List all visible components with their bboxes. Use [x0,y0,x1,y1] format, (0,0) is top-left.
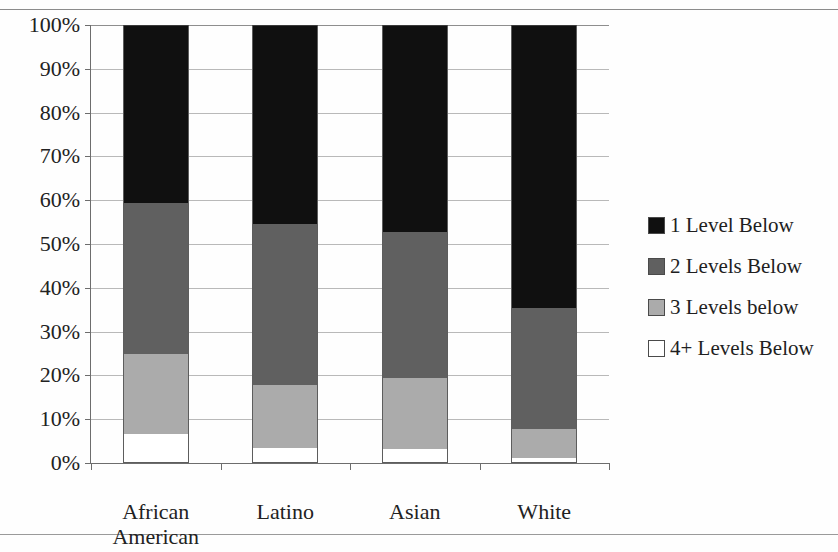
x-axis-label-line: American [112,524,199,549]
y-axis-label: 30% [40,321,80,343]
legend: 1 Level Below2 Levels Below3 Levels belo… [648,205,834,369]
legend-item[interactable]: 2 Levels Below [648,246,834,287]
y-axis-label: 20% [40,364,80,386]
y-axis-label: 100% [29,14,80,36]
bar-segment[interactable] [382,232,448,378]
bar-segment[interactable] [123,434,189,463]
x-axis-label: Latino [257,499,314,524]
y-axis-label: 40% [40,277,80,299]
chart-page: 100%90%80%70%60%50%40%30%20%10%0% Africa… [0,0,838,552]
bar-segment[interactable] [252,448,318,463]
bar-segment[interactable] [382,378,448,449]
legend-label: 1 Level Below [670,215,794,236]
x-axis-label-line: Asian [389,499,440,524]
x-axis-label: AfricanAmerican [112,499,199,549]
bar-segment[interactable] [511,25,577,308]
bar-segment[interactable] [123,203,189,354]
plot-area: 100%90%80%70%60%50%40%30%20%10%0% Africa… [90,25,609,464]
bar-segment[interactable] [382,449,448,463]
bar-slot [480,25,610,463]
bar-segment[interactable] [511,429,577,458]
legend-swatch-icon [648,258,665,275]
bar-slot [350,25,480,463]
x-axis-label: White [517,499,571,524]
legend-swatch-icon [648,217,665,234]
x-axis-tick [221,463,222,470]
stacked-bar[interactable] [382,25,448,463]
stacked-bar[interactable] [123,25,189,463]
bars-group [91,25,609,463]
y-axis-label: 60% [40,189,80,211]
x-axis-label-line: White [517,499,571,524]
x-axis-label: Asian [389,499,440,524]
legend-item[interactable]: 1 Level Below [648,205,834,246]
legend-swatch-icon [648,340,665,357]
bar-slot [91,25,221,463]
y-axis-label: 80% [40,102,80,124]
legend-item[interactable]: 3 Levels below [648,287,834,328]
x-axis-tick [350,463,351,470]
legend-item[interactable]: 4+ Levels Below [648,328,834,369]
bar-segment[interactable] [252,385,318,448]
stacked-bar[interactable] [252,25,318,463]
bar-segment[interactable] [123,354,189,434]
x-axis-label-line: Latino [257,499,314,524]
legend-label: 4+ Levels Below [670,338,814,359]
bar-segment[interactable] [511,458,577,463]
legend-swatch-icon [648,299,665,316]
bar-segment[interactable] [252,224,318,385]
clipped-caption-text [0,0,838,3]
y-axis-label: 0% [51,452,80,474]
y-axis-label: 90% [40,58,80,80]
x-axis-label-line: African [122,499,189,524]
x-axis-tick [609,463,610,470]
y-axis-label: 50% [40,233,80,255]
bar-segment[interactable] [123,25,189,203]
stacked-bar[interactable] [511,25,577,463]
chart-area: 100%90%80%70%60%50%40%30%20%10%0% Africa… [0,9,838,534]
x-axis-tick [480,463,481,470]
bar-segment[interactable] [252,25,318,224]
bar-segment[interactable] [511,308,577,429]
y-axis-label: 70% [40,145,80,167]
bar-segment[interactable] [382,25,448,232]
x-axis-tick [91,463,92,470]
legend-label: 2 Levels Below [670,256,802,277]
bar-slot [221,25,351,463]
legend-label: 3 Levels below [670,297,798,318]
y-axis-label: 10% [40,408,80,430]
